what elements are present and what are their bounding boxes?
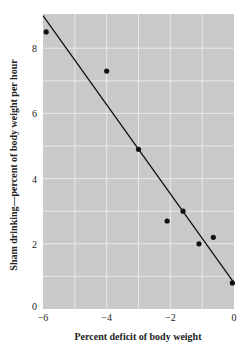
x-tick-label: 0 (232, 312, 237, 323)
data-point (211, 235, 216, 240)
y-axis-ticks: 02468 (32, 43, 37, 312)
scatter-chart: −6−4−20 02468 Percent deficit of body we… (0, 0, 246, 349)
x-tick-label: −2 (165, 312, 176, 323)
y-axis-label: Sham drinking—percent of body weight per… (8, 59, 19, 271)
x-axis-label: Percent deficit of body weight (74, 331, 202, 342)
data-point (196, 241, 201, 246)
y-tick-label: 6 (32, 108, 37, 119)
data-point (44, 29, 49, 34)
data-point (136, 147, 141, 152)
data-point (230, 280, 235, 285)
y-tick-label: 0 (32, 301, 37, 312)
data-point (180, 209, 185, 214)
x-axis-ticks: −6−4−20 (38, 312, 237, 323)
x-tick-label: −6 (38, 312, 49, 323)
data-point (165, 218, 170, 223)
data-point (104, 68, 109, 73)
x-tick-label: −4 (101, 312, 112, 323)
y-tick-label: 4 (32, 174, 37, 185)
y-tick-label: 8 (32, 43, 37, 54)
y-tick-label: 2 (32, 239, 37, 250)
